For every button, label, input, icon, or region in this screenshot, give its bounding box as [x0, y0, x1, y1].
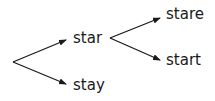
edge-root-star [13, 40, 66, 62]
node-stay: stay [73, 78, 105, 93]
edge-star-stare [110, 18, 160, 38]
edge-root-stay [13, 62, 66, 84]
node-star: star [73, 31, 102, 46]
node-stare: stare [166, 7, 204, 22]
node-start: start [166, 53, 201, 68]
word-tree-diagram: star stay stare start [0, 0, 215, 101]
edge-star-start [110, 38, 160, 60]
